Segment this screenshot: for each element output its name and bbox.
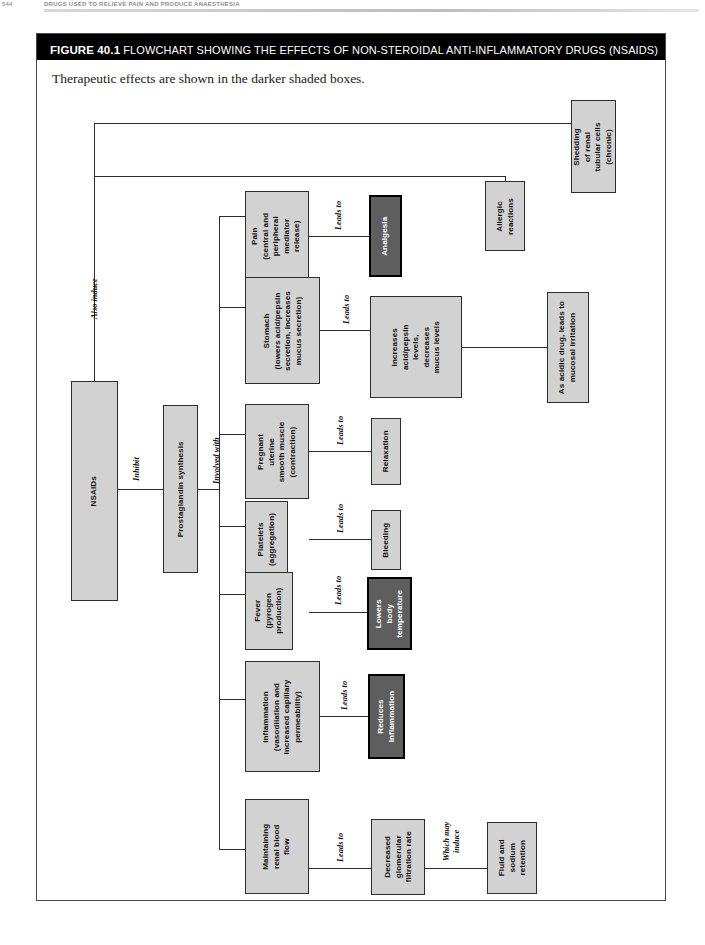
node-pregnant-uterine-label: Pregnantuterinesmooth muscle(contraction…: [256, 421, 298, 482]
edge-label-leads-to-gfr: Leads to: [336, 833, 346, 862]
node-prostaglandin-synthesis[interactable]: Prostaglandin synthesis: [163, 405, 198, 573]
node-platelets-label: Platelets(aggregation): [256, 512, 277, 565]
edge-label-inhibit: Inhibit: [132, 457, 142, 481]
connector-stub-fever: [219, 594, 245, 595]
edge-label-leads-to-lowerstemp: Leads to: [334, 576, 344, 605]
connector-stub-inflammation: [219, 699, 245, 700]
node-allergic-reactions[interactable]: Allergicreactions: [485, 181, 525, 251]
running-head: 544 DRUGS USED TO RELIEVE PAIN AND PRODU…: [0, 0, 705, 14]
edge-label-also-induce: Also induce: [90, 278, 100, 319]
connector-uterine-to-relaxation: [309, 451, 371, 452]
node-relaxation-label: Relaxation: [381, 431, 392, 473]
connector-fever-to-lowerstemp: [309, 612, 367, 613]
connector-stub-renalflow: [219, 849, 245, 850]
node-reduces-inflammation-label: Reducesinflammation: [376, 691, 397, 743]
node-pain-label: Pain(central andperipheralmediatorreleas…: [251, 212, 304, 259]
node-increases-acid-pepsin[interactable]: Increasesacid/pepsinlevels,decreasesmucu…: [370, 296, 462, 398]
edge-label-leads-to-reduces: Leads to: [340, 681, 350, 710]
connector-inflammation-to-reduces: [320, 716, 368, 717]
connector-platelets-to-bleeding: [309, 539, 371, 540]
edge-label-leads-to-increases: Leads to: [342, 295, 352, 324]
edge-label-leads-to-relaxation: Leads to: [336, 416, 346, 445]
node-inflammation[interactable]: Inflammation(vasodilation andincreased c…: [245, 661, 320, 772]
node-platelets[interactable]: Platelets(aggregation): [245, 501, 288, 577]
connector-stub-platelets: [219, 526, 245, 527]
node-bleeding-label: Bleeding: [381, 523, 392, 558]
connector-pain-to-analgesia: [309, 236, 369, 237]
connector-stub-pain: [219, 216, 245, 217]
connector-increases-to-acidic: [462, 347, 547, 348]
edge-label-leads-to-bleeding: Leads to: [336, 504, 346, 533]
running-head-rule: [44, 9, 699, 12]
connector-also-induce-rail-2: [94, 176, 506, 177]
connector-nsaids-to-pg: [118, 489, 163, 490]
node-analgesia-label: Analgesia: [380, 216, 391, 255]
edge-label-which-may-induce: Which mayinduce: [442, 822, 462, 861]
node-acidic-drug[interactable]: As acidic drug, leads tomucosal irritati…: [547, 292, 589, 403]
running-head-title: DRUGS USED TO RELIEVE PAIN AND PRODUCE A…: [44, 1, 240, 7]
node-pregnant-uterine[interactable]: Pregnantuterinesmooth muscle(contraction…: [245, 404, 309, 499]
connector-also-induce-rail-1: [94, 123, 594, 124]
edge-label-involved-with: Involved with: [212, 437, 222, 484]
node-increases-acid-pepsin-label: Increasesacid/pepsinlevels,decreasesmucu…: [390, 321, 443, 373]
node-reduces-inflammation[interactable]: Reducesinflammation: [368, 674, 405, 759]
node-fluid-sodium-retention-label: Fluid andsodiumretention: [496, 840, 528, 877]
node-nsaids-label: NSAIDs: [89, 476, 100, 506]
connector-gfr-to-fluid: [425, 868, 487, 869]
node-decreased-gfr-label: Decreasedglomerularfiltration rate: [382, 832, 414, 883]
node-stomach[interactable]: Stomach(lowers acid/pepsinsecretion, inc…: [245, 277, 320, 384]
node-lowers-body-temperature[interactable]: Lowersbodytemperature: [367, 577, 412, 650]
node-acidic-drug-label: As acidic drug, leads tomucosal irritati…: [558, 301, 579, 394]
node-maintaining-renal-blood-flow[interactable]: Maintainingrenal bloodflow: [245, 799, 309, 894]
flowchart-canvas: Also induce Inhibit Involved with Leads …: [37, 34, 667, 902]
figure-frame: FIGURE 40.1 FLOWCHART SHOWING THE EFFECT…: [36, 33, 666, 901]
connector-pg-to-trunk: [198, 489, 219, 490]
node-fever-label: Fever(pyrogenproduction): [253, 588, 285, 634]
node-analgesia[interactable]: Analgesia: [369, 195, 402, 277]
node-shedding-renal-tubular-cells[interactable]: Sheddingof renaltubular cells(chronic): [571, 100, 616, 193]
connector-stub-uterine: [219, 434, 245, 435]
node-relaxation[interactable]: Relaxation: [371, 418, 401, 485]
connector-stub-stomach: [219, 307, 245, 308]
connector-branch-trunk: [219, 216, 220, 849]
connector-renalflow-to-gfr: [309, 868, 371, 869]
node-pain[interactable]: Pain(central andperipheralmediatorreleas…: [245, 191, 309, 281]
node-bleeding[interactable]: Bleeding: [371, 510, 401, 570]
connector-nsaids-stem: [94, 123, 95, 381]
node-fluid-sodium-retention[interactable]: Fluid andsodiumretention: [487, 822, 537, 894]
node-prostaglandin-synthesis-label: Prostaglandin synthesis: [175, 441, 186, 537]
page-folio: 544: [2, 1, 13, 7]
node-shedding-renal-tubular-cells-label: Sheddingof renaltubular cells(chronic): [573, 122, 615, 171]
node-fever[interactable]: Fever(pyrogenproduction): [245, 572, 293, 650]
node-lowers-body-temperature-label: Lowersbodytemperature: [374, 590, 406, 638]
node-decreased-gfr[interactable]: Decreasedglomerularfiltration rate: [371, 819, 425, 895]
node-nsaids[interactable]: NSAIDs: [71, 381, 118, 601]
node-inflammation-label: Inflammation(vasodilation andincreased c…: [262, 679, 304, 754]
connector-stomach-to-increases: [320, 330, 370, 331]
edge-label-leads-to-analgesia: Leads to: [334, 201, 344, 230]
node-allergic-reactions-label: Allergicreactions: [494, 198, 515, 235]
node-maintaining-renal-blood-flow-label: Maintainingrenal bloodflow: [261, 823, 293, 869]
node-stomach-label: Stomach(lowers acid/pepsinsecretion, inc…: [262, 291, 304, 371]
